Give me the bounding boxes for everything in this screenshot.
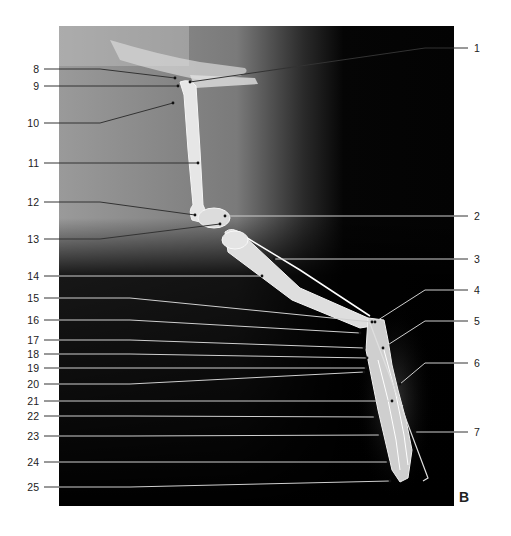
label-13: 13	[17, 233, 39, 245]
label-11: 11	[17, 157, 39, 169]
label-23: 23	[17, 430, 39, 442]
label-18: 18	[17, 348, 39, 360]
label-16: 16	[17, 314, 39, 326]
label-10: 10	[17, 117, 39, 129]
label-6: 6	[474, 357, 496, 369]
label-1: 1	[474, 42, 496, 54]
label-12: 12	[17, 196, 39, 208]
label-17: 17	[17, 334, 39, 346]
radiograph-image	[0, 0, 511, 536]
label-14: 14	[17, 270, 39, 282]
label-24: 24	[17, 456, 39, 468]
label-7: 7	[474, 426, 496, 438]
label-5: 5	[474, 315, 496, 327]
label-3: 3	[474, 253, 496, 265]
panel-letter: B	[459, 489, 469, 505]
label-21: 21	[17, 395, 39, 407]
label-25: 25	[17, 481, 39, 493]
label-4: 4	[474, 284, 496, 296]
label-8: 8	[17, 63, 39, 75]
label-2: 2	[474, 210, 496, 222]
label-9: 9	[17, 80, 39, 92]
label-20: 20	[17, 378, 39, 390]
label-15: 15	[17, 292, 39, 304]
label-22: 22	[17, 410, 39, 422]
radiograph-figure: 8910111213141516171819202122232425 12345…	[0, 0, 511, 536]
label-19: 19	[17, 362, 39, 374]
